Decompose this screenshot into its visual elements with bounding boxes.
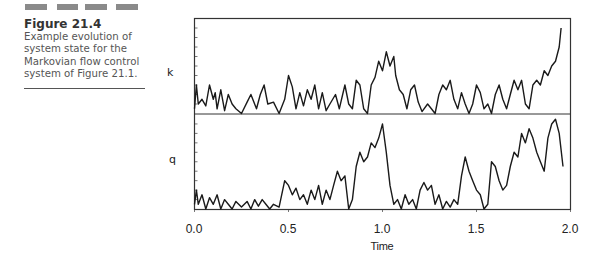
q-trace xyxy=(195,119,564,209)
x-tick-label: 2.0 xyxy=(562,222,579,236)
x-tick-label: 1.0 xyxy=(374,222,391,236)
plot-area xyxy=(0,0,607,263)
x-tick-label: 0.5 xyxy=(280,222,297,236)
x-tick-label: 1.5 xyxy=(468,222,485,236)
y-axis-ticks xyxy=(195,28,571,212)
k-trace xyxy=(195,28,562,114)
x-tick-label: 0.0 xyxy=(186,222,203,236)
x-axis-label: Time xyxy=(371,240,394,252)
